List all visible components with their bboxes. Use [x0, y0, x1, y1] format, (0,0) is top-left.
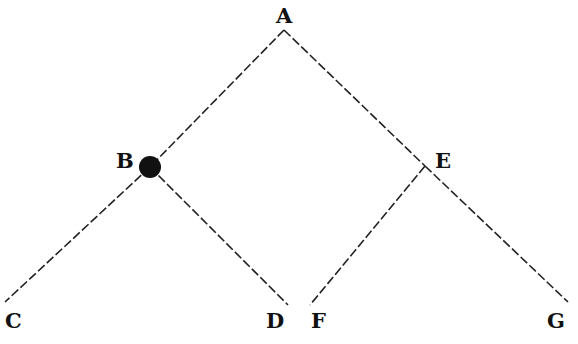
- tree-diagram: [0, 0, 578, 344]
- edge-b-d: [150, 167, 288, 305]
- edge-e-g: [425, 166, 568, 302]
- node-label-c: C: [5, 310, 22, 331]
- node-label-e: E: [435, 150, 451, 171]
- node-label-f: F: [311, 310, 326, 331]
- node-label-g: G: [547, 310, 565, 331]
- edge-a-b: [150, 30, 284, 167]
- node-label-d: D: [266, 310, 284, 331]
- node-label-a: A: [276, 5, 292, 26]
- node-b-marker: [139, 156, 161, 178]
- edge-e-f: [310, 166, 425, 305]
- edge-a-e: [284, 30, 425, 166]
- node-label-b: B: [116, 150, 134, 171]
- edge-b-c: [5, 167, 150, 302]
